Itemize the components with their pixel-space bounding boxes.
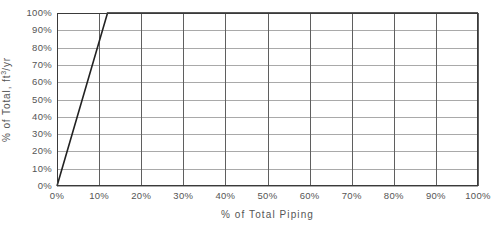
y-axis-title-suffix: /yr: [1, 57, 12, 71]
y-axis-title: % of Total, ft3/yr: [0, 13, 14, 186]
y-axis-tick-label: 80%: [32, 43, 52, 53]
x-axis-tick-label: 30%: [173, 191, 193, 201]
x-axis-title: % of Total Piping: [57, 209, 478, 220]
x-axis-tick-label: 10%: [89, 191, 109, 201]
x-axis-tick-labels: 0%10%20%30%40%50%60%70%80%90%100%: [57, 191, 478, 205]
x-axis-tick-label: 0%: [50, 191, 64, 201]
y-axis-tick-label: 60%: [32, 77, 52, 87]
y-axis-tick-label: 90%: [32, 26, 52, 36]
x-axis-tick-label: 80%: [384, 191, 404, 201]
x-axis-tick-label: 90%: [426, 191, 446, 201]
x-axis-tick-label: 50%: [258, 191, 278, 201]
y-axis-tick-label: 20%: [32, 147, 52, 157]
y-axis-tick-label: 50%: [32, 95, 52, 105]
x-axis-tick-label: 70%: [342, 191, 362, 201]
plot-area: [57, 13, 478, 186]
x-axis-tick-label: 100%: [465, 191, 491, 201]
x-axis-tick-label: 20%: [131, 191, 151, 201]
y-axis-tick-label: 30%: [32, 129, 52, 139]
y-axis-tick-label: 100%: [27, 8, 53, 18]
y-axis-tick-label: 70%: [32, 60, 52, 70]
plot-frame: [57, 13, 478, 186]
y-axis-title-superscript: 3: [0, 71, 7, 75]
chart-container: 0%10%20%30%40%50%60%70%80%90%100% 0%10%2…: [0, 0, 492, 230]
y-axis-tick-label: 10%: [32, 164, 52, 174]
y-axis-title-prefix: % of Total, ft: [1, 75, 12, 142]
y-axis-tick-label: 40%: [32, 112, 52, 122]
x-axis-tick-label: 40%: [215, 191, 235, 201]
x-axis-tick-label: 60%: [300, 191, 320, 201]
